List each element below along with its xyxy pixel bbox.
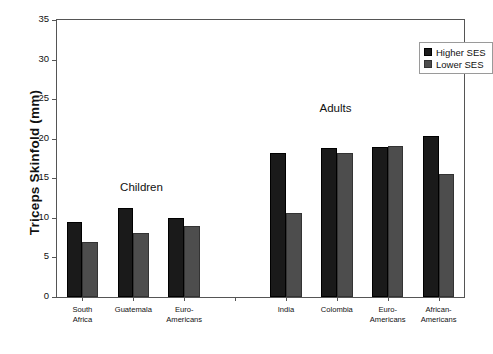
y-axis-tick-label: 0 [44,290,49,301]
bar [270,153,286,297]
y-axis-tick-label: 10 [38,211,49,222]
y-axis-title: Triceps Skinfold (mm) [27,43,42,283]
x-axis-tick [337,297,338,301]
plot-area: 05101520253035 ChildrenAdults Higher SES… [56,19,465,298]
y-axis-tick-mark [52,139,57,140]
x-axis-tick [82,297,83,301]
legend-item-higher-ses: Higher SES [424,46,486,58]
y-axis-tick-mark [52,99,57,100]
bar [67,222,83,297]
y-axis-tick-mark [52,60,57,61]
y-axis-tick-label: 5 [44,250,49,261]
legend-label-higher-ses: Higher SES [436,47,486,58]
x-axis-tick [388,297,389,301]
y-axis-tick-label: 20 [38,132,49,143]
y-axis-tick-label: 35 [38,13,49,24]
y-axis-tick-mark [52,297,57,298]
x-axis-category-label: African- Americans [388,305,490,324]
y-axis-tick-label: 15 [38,171,49,182]
x-axis-tick [184,297,185,301]
x-axis-category-label: Euro- Americans [133,305,235,324]
x-axis-tick [286,297,287,301]
bar [337,153,353,297]
y-axis-tick-label: 25 [38,92,49,103]
bar [439,174,455,297]
group-annotation: Adults [320,102,352,114]
bar [118,208,134,297]
bar [388,146,404,297]
y-axis-tick-mark [52,20,57,21]
x-axis-tick [133,297,134,301]
y-axis-tick-mark [52,218,57,219]
legend-swatch-higher-ses [424,48,432,56]
y-axis-tick-mark [52,257,57,258]
bar [184,226,200,297]
chart-legend: Higher SES Lower SES [419,42,493,74]
bar [168,218,184,297]
bar [321,148,337,297]
bar [372,147,388,297]
legend-item-lower-ses: Lower SES [424,58,486,70]
y-axis-tick-mark [52,178,57,179]
bar [423,136,439,297]
legend-label-lower-ses: Lower SES [436,59,484,70]
bar [286,213,302,297]
group-annotation: Children [120,181,163,193]
bar [82,242,98,297]
y-axis-tick-label: 30 [38,53,49,64]
legend-swatch-lower-ses [424,60,432,68]
x-axis-tick [439,297,440,301]
bar [133,233,149,297]
x-axis-tick [235,297,236,301]
